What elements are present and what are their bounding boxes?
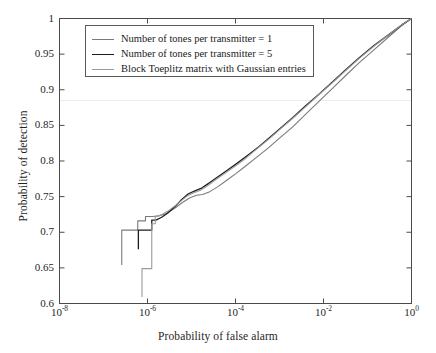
legend-label: Number of tones per transmitter = 1 [121, 33, 272, 45]
x-tick-exponent: -2 [326, 304, 332, 313]
legend: Number of tones per transmitter = 1Numbe… [85, 25, 314, 77]
legend-label: Number of tones per transmitter = 5 [121, 48, 272, 60]
y-axis-title: Probability of detection [17, 86, 29, 246]
legend-item-1[interactable]: Number of tones per transmitter = 1 [92, 31, 272, 47]
x-tick-exponent: -4 [238, 304, 244, 313]
x-tick-exponent: -8 [62, 304, 68, 313]
x-tick-label: 10-4 [211, 306, 261, 318]
x-tick-label: 100 [387, 306, 436, 318]
x-tick-exponent: 0 [415, 304, 419, 313]
y-tick-label: 0.65 [10, 261, 54, 273]
x-tick-label: 10-2 [299, 306, 349, 318]
legend-line-swatch [92, 54, 114, 55]
x-tick-mantissa: 10 [315, 306, 326, 318]
x-tick-mantissa: 10 [404, 306, 415, 318]
legend-item-3[interactable]: Block Toeplitz matrix with Gaussian entr… [92, 61, 306, 77]
y-tick-label: 0.95 [10, 47, 54, 59]
y-tick-label: 1 [10, 12, 54, 24]
x-tick-mantissa: 10 [227, 306, 238, 318]
legend-item-2[interactable]: Number of tones per transmitter = 5 [92, 46, 272, 62]
legend-line-swatch [92, 39, 114, 40]
x-axis-title: Probability of false alarm [0, 330, 436, 342]
legend-label: Block Toeplitz matrix with Gaussian entr… [121, 63, 306, 75]
x-tick-label: 10-6 [123, 306, 173, 318]
legend-line-swatch [92, 69, 114, 70]
x-tick-mantissa: 10 [51, 306, 62, 318]
x-tick-mantissa: 10 [139, 306, 150, 318]
roc-chart-figure: 10.950.90.850.80.750.70.650.6 10-810-610… [0, 0, 436, 353]
x-tick-exponent: -6 [150, 304, 156, 313]
x-tick-label: 10-8 [35, 306, 85, 318]
